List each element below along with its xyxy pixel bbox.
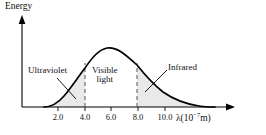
x-tick-label: 10.0 — [158, 112, 173, 122]
region-label-infrared: Infrared — [168, 63, 197, 72]
x-tick-label: 4.0 — [80, 112, 91, 122]
x-tick-label: 6.0 — [106, 112, 117, 122]
y-axis-label: Energy — [5, 2, 32, 12]
x-axis-label-suffix: m) — [200, 113, 211, 123]
region-label-visible: Visible light — [92, 66, 117, 85]
x-axis-label-prefix: λ(10 — [176, 113, 193, 123]
region-label-visible-line2: light — [92, 75, 117, 84]
x-axis-label: λ(10−7m) — [176, 114, 211, 124]
y-axis-arrowhead — [19, 15, 26, 24]
x-axis-arrowhead — [226, 104, 235, 111]
region-label-ultraviolet: Ultraviolet — [28, 66, 67, 75]
x-axis-ticks — [58, 107, 165, 111]
x-tick-label: 2.0 — [53, 112, 64, 122]
x-tick-label: 8.0 — [133, 112, 144, 122]
